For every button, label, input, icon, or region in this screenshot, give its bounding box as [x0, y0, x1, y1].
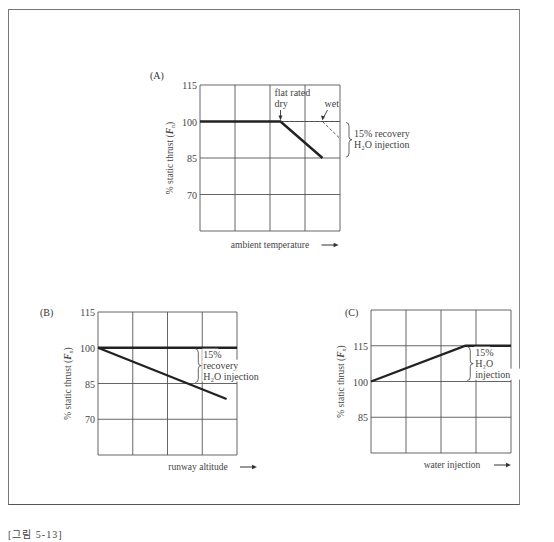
annotation-wet: wet — [325, 98, 340, 109]
chart-c: (C)11510085% static thrust (Fn)water inj… — [336, 307, 522, 470]
arrowhead-icon — [334, 243, 339, 247]
panel-label: (B) — [40, 307, 53, 319]
y-tick-label: 85 — [187, 153, 197, 164]
annotation-text: recovery — [203, 360, 238, 371]
x-axis-label: water injection — [424, 460, 481, 470]
arrow-down-icon — [279, 116, 283, 121]
brace-icon — [467, 347, 473, 381]
y-tick-label: 115 — [80, 307, 95, 318]
annotation-text: 15% — [475, 347, 493, 358]
y-axis-label: % static thrust (Fn) — [63, 347, 74, 419]
y-tick-label: 100 — [182, 117, 197, 128]
arrowhead-icon — [252, 465, 257, 469]
y-tick-label: 115 — [182, 80, 197, 91]
brace-icon — [346, 123, 352, 158]
y-tick-label: 85 — [358, 412, 368, 423]
annotation-text: H₂O injection — [354, 139, 409, 150]
annotation-text: 15% recovery — [354, 128, 410, 139]
arrowhead-icon — [506, 463, 511, 467]
annotation-dry: dry — [275, 98, 288, 109]
y-axis-label: % static thrust (Fn) — [336, 345, 347, 417]
y-tick-label: 100 — [353, 377, 368, 388]
chart-grid — [200, 85, 340, 231]
series-wet-drop — [323, 122, 341, 139]
annotation-flat-rated: flat rated — [275, 87, 311, 98]
brace-icon — [195, 349, 201, 383]
y-tick-label: 115 — [353, 341, 368, 352]
annotation-text: H₂O — [475, 358, 493, 369]
series-dry — [200, 122, 323, 159]
chart-b: (B)1151008570% static thrust (Fn)runway … — [40, 307, 271, 472]
x-axis-label: ambient temperature — [231, 240, 309, 250]
figure-canvas: (A)1151008570% static thrust (Fn)ambient… — [0, 0, 554, 542]
y-tick-label: 70 — [187, 190, 197, 201]
annotation-text: injection — [475, 369, 510, 380]
annotation-text: 15% — [203, 349, 221, 360]
y-axis-label: % static thrust (Fn) — [165, 122, 176, 194]
y-tick-label: 100 — [80, 343, 95, 354]
chart-a: (A)1151008570% static thrust (Fn)ambient… — [150, 70, 422, 250]
panel-label: (A) — [150, 70, 164, 82]
chart-grid — [98, 312, 237, 455]
y-tick-label: 70 — [85, 414, 95, 425]
panel-label: (C) — [345, 307, 358, 319]
annotation-text: H₂O injection — [203, 371, 258, 382]
y-tick-label: 85 — [85, 379, 95, 390]
figure-caption: [그림 5-13] — [8, 526, 63, 541]
chart-grid — [371, 310, 511, 453]
x-axis-label: runway altitude — [168, 462, 227, 472]
